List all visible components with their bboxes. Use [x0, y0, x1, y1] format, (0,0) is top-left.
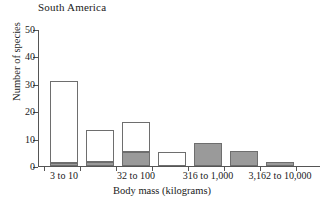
- y-axis-line: [38, 30, 39, 167]
- y-tick-label: 20: [25, 106, 35, 117]
- bar: [86, 130, 114, 166]
- bar: [158, 152, 186, 166]
- y-tick-label: 0: [30, 161, 35, 172]
- bar-segment-gray: [230, 151, 258, 166]
- bar-segment-gray: [194, 143, 222, 166]
- bar: [50, 81, 78, 166]
- x-tick-mark: [80, 167, 81, 171]
- bar-segment-white: [122, 122, 150, 152]
- y-tick-label: 30: [25, 79, 35, 90]
- x-tick-label: 3 to 10: [50, 170, 78, 181]
- bar: [122, 122, 150, 166]
- bar: [230, 151, 258, 166]
- chart-figure: South America Number of species 01020304…: [0, 0, 324, 202]
- bar-segment-gray: [266, 162, 294, 166]
- x-tick-label: 3,162 to 10,000: [249, 170, 312, 181]
- bar-segment-white: [86, 130, 114, 162]
- bar-segment-gray: [50, 163, 78, 166]
- bar-segment-gray: [122, 152, 150, 166]
- x-axis-title: Body mass (kilograms): [0, 185, 324, 196]
- bar-segment-gray: [86, 162, 114, 166]
- chart-title: South America: [38, 1, 106, 13]
- plot-area: 01020304050: [38, 30, 320, 167]
- x-tick-label: 32 to 100: [117, 170, 155, 181]
- x-tick-label: 316 to 1,000: [183, 170, 233, 181]
- bar: [194, 143, 222, 166]
- y-tick-label: 50: [25, 24, 35, 35]
- x-tick-mark: [44, 167, 45, 171]
- bar-segment-white: [158, 152, 186, 166]
- bar: [266, 162, 294, 166]
- y-tick-label: 40: [25, 51, 35, 62]
- bar-segment-white: [50, 81, 78, 163]
- y-axis-title: Number of species: [11, 0, 22, 127]
- y-tick-label: 10: [25, 134, 35, 145]
